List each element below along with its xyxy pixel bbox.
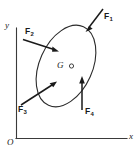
force-f3-label: F3: [18, 105, 27, 114]
force-f4-symbol: F: [85, 106, 90, 116]
force-f4-subscript: 4: [91, 111, 94, 117]
free-body-diagram-figure: y x O G F1 F2 F3 F4: [0, 0, 139, 153]
force-f1-subscript: 1: [110, 16, 113, 22]
center-of-gravity-marker: [69, 64, 73, 68]
force-f2-arrowhead: [52, 47, 59, 52]
force-f2-arrow: [23, 40, 59, 52]
center-of-gravity-label: G: [57, 61, 64, 70]
force-f4-arrowhead: [79, 76, 85, 84]
force-f2-symbol: F: [25, 26, 30, 36]
x-axis-label: x: [129, 132, 133, 141]
force-f1-symbol: F: [104, 11, 109, 21]
force-f2-shaft: [23, 40, 54, 50]
rigid-body-group: [24, 16, 107, 116]
axes-group: [16, 28, 127, 139]
rigid-body-ellipse: [24, 16, 107, 116]
y-axis-label: y: [5, 21, 9, 30]
force-f2-subscript: 2: [31, 31, 34, 37]
force-f4-label: F4: [85, 107, 94, 116]
diagram-canvas: [0, 0, 139, 153]
force-f3-subscript: 3: [24, 109, 27, 115]
force-f3-arrow: [21, 82, 57, 106]
force-f1-arrow: [86, 9, 104, 32]
origin-label: O: [7, 138, 14, 147]
force-f2-label: F2: [25, 27, 34, 36]
force-f1-shaft: [89, 9, 104, 28]
force-f1-label: F1: [104, 12, 113, 21]
force-f3-symbol: F: [18, 104, 23, 114]
